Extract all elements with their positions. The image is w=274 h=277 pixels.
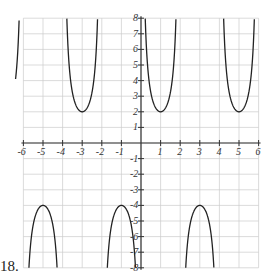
x-tick-label: -1 xyxy=(115,147,123,157)
y-tick-label: -8 xyxy=(130,263,138,273)
curve-branch xyxy=(16,20,20,79)
y-tick-label: 4 xyxy=(133,76,138,86)
y-tick-label: 5 xyxy=(133,60,138,70)
y-tick-label: -4 xyxy=(130,200,138,210)
x-tick-label: 5 xyxy=(236,147,241,157)
x-tick-label: -4 xyxy=(57,147,65,157)
x-tick-label: 1 xyxy=(158,147,163,157)
x-tick-label: 4 xyxy=(216,147,221,157)
y-tick-label: 3 xyxy=(133,91,138,101)
y-tick-label: -6 xyxy=(130,232,138,242)
x-tick-label: -3 xyxy=(76,147,84,157)
y-tick-label: -7 xyxy=(130,247,138,257)
x-tick-label: -5 xyxy=(37,147,45,157)
x-tick-label: 6 xyxy=(256,147,261,157)
y-tick-label: 6 xyxy=(133,44,138,54)
x-tick-label: -2 xyxy=(96,147,104,157)
y-tick-label: 2 xyxy=(133,107,138,117)
y-tick-label: -5 xyxy=(130,216,138,226)
y-tick-label: -3 xyxy=(130,185,138,195)
y-tick-label: 1 xyxy=(133,122,138,132)
y-tick-label: 8 xyxy=(133,13,138,23)
y-tick-label: -2 xyxy=(130,169,138,179)
y-tick-label: -1 xyxy=(130,154,138,164)
x-tick-label: -6 xyxy=(17,147,25,157)
y-tick-label: 7 xyxy=(133,29,138,39)
x-tick-label: 2 xyxy=(177,147,182,157)
problem-number: 18. xyxy=(0,258,19,275)
x-tick-label: 3 xyxy=(197,147,202,157)
